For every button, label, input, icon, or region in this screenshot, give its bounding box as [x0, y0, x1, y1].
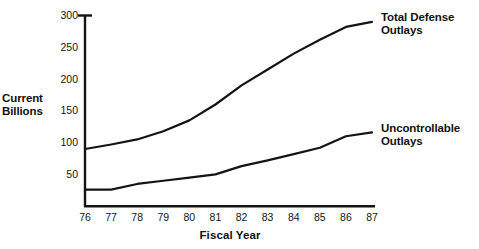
axes-group [78, 15, 375, 207]
line-chart-figure: 50100150200250300 7677787980818283848586… [0, 0, 479, 249]
x-tick-label: 84 [283, 211, 305, 223]
y-axis-title-line-1: Current [2, 92, 64, 105]
series-label-line-2: Outlays [381, 135, 460, 148]
y-tick-label: 300 [50, 9, 78, 21]
series-label-line-1: Total Defense [381, 11, 454, 24]
y-tick-label: 100 [50, 136, 78, 148]
x-tick-label: 87 [361, 211, 383, 223]
x-tick-label: 83 [257, 211, 279, 223]
y-axis-title-line-2: Billions [2, 105, 64, 118]
x-tick-label: 76 [74, 211, 96, 223]
series-label-total-defense-outlays: Total Defense Outlays [381, 11, 454, 37]
y-tick-label: 50 [50, 168, 78, 180]
series-label-line-2: Outlays [381, 24, 454, 37]
x-tick-label: 81 [204, 211, 226, 223]
x-tick-label: 77 [100, 211, 122, 223]
x-tick-label: 79 [152, 211, 174, 223]
series-label-uncontrollable-outlays: Uncontrollable Outlays [381, 122, 460, 148]
y-tick-label: 250 [50, 41, 78, 53]
series-line-total-defense-outlays [85, 22, 372, 149]
y-tick-label: 200 [50, 73, 78, 85]
x-tick-label: 85 [309, 211, 331, 223]
x-tick-label: 82 [231, 211, 253, 223]
x-tick-label: 80 [178, 211, 200, 223]
y-axis-title: Current Billions [2, 92, 64, 117]
x-tick-label: 78 [126, 211, 148, 223]
series-lines-group [85, 22, 372, 190]
x-axis-title: Fiscal Year [150, 229, 310, 241]
series-label-line-1: Uncontrollable [381, 122, 460, 135]
x-tick-label: 86 [335, 211, 357, 223]
